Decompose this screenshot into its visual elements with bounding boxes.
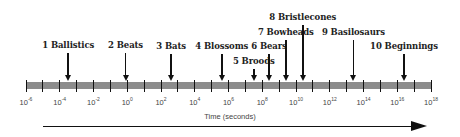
event-label: 6 Bears bbox=[251, 41, 287, 51]
event-label: 9 Basilosaurs bbox=[322, 27, 385, 37]
event-label: 7 Bowheads bbox=[258, 27, 314, 37]
tick-mark bbox=[431, 80, 432, 92]
tick-mark bbox=[194, 80, 195, 92]
event-label: 10 Beginnings bbox=[370, 41, 438, 51]
tick-label: 10-4 bbox=[53, 96, 66, 107]
time-arrow-line bbox=[43, 126, 413, 128]
tick-label: 1016 bbox=[390, 96, 404, 107]
timescale-diagram: 1 Ballistics2 Beats3 Bats4 Blossoms5 Bro… bbox=[0, 0, 460, 137]
tick-mark bbox=[397, 80, 398, 92]
tick-mark bbox=[110, 80, 111, 92]
tick-mark bbox=[312, 80, 313, 92]
tick-label: 100 bbox=[122, 96, 133, 107]
axis-title: Time (seconds) bbox=[204, 112, 255, 121]
tick-mark bbox=[380, 80, 381, 92]
tick-mark bbox=[245, 80, 246, 92]
tick-mark bbox=[414, 80, 415, 92]
event-label: 3 Bats bbox=[156, 41, 186, 51]
tick-mark bbox=[296, 80, 297, 92]
tick-mark bbox=[279, 80, 280, 92]
tick-label: 104 bbox=[189, 96, 200, 107]
tick-mark bbox=[42, 80, 43, 92]
tick-label: 1010 bbox=[289, 96, 303, 107]
tick-mark bbox=[262, 80, 263, 92]
event-label: 1 Ballistics bbox=[42, 40, 94, 50]
tick-mark bbox=[177, 80, 178, 92]
tick-mark bbox=[26, 80, 27, 92]
tick-mark bbox=[93, 80, 94, 92]
event-label: 4 Blossoms bbox=[195, 41, 248, 51]
tick-mark bbox=[144, 80, 145, 92]
tick-label: 108 bbox=[257, 96, 268, 107]
tick-label: 102 bbox=[155, 96, 166, 107]
tick-mark bbox=[363, 80, 364, 92]
tick-mark bbox=[228, 80, 229, 92]
tick-mark bbox=[161, 80, 162, 92]
tick-mark bbox=[211, 80, 212, 92]
tick-label: 106 bbox=[223, 96, 234, 107]
time-arrow-head-icon bbox=[411, 121, 427, 131]
tick-mark bbox=[76, 80, 77, 92]
tick-mark bbox=[329, 80, 330, 92]
tick-label: 10-6 bbox=[20, 96, 33, 107]
tick-mark bbox=[346, 80, 347, 92]
event-label: 2 Beats bbox=[108, 40, 143, 50]
tick-label: 1018 bbox=[424, 96, 438, 107]
event-label: 8 Bristlecones bbox=[269, 12, 336, 22]
tick-mark bbox=[59, 80, 60, 92]
tick-label: 1012 bbox=[323, 96, 337, 107]
tick-label: 1014 bbox=[357, 96, 371, 107]
tick-mark bbox=[127, 80, 128, 92]
tick-label: 10-2 bbox=[87, 96, 100, 107]
